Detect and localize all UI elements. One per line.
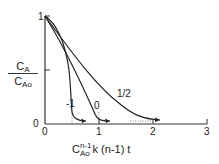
arrow-n-zero-icon [105, 119, 110, 124]
x-label-rest: k (n-1) t [93, 143, 131, 155]
y-label-denominator-sub: Ao [22, 80, 32, 89]
x-tick-label-3: 3 [204, 127, 210, 137]
curve-label-n-zero: 0 [94, 101, 100, 111]
x-label-main: C [72, 143, 80, 155]
arrow-n-minus1-icon [81, 119, 86, 124]
curve-label-n-half: 1/2 [117, 89, 131, 99]
x-tick-label-2: 2 [150, 127, 156, 137]
y-label-numerator-sub: A [24, 65, 29, 74]
y-tick-label-0: 0 [33, 119, 39, 129]
y-axis-label: CA CAo [8, 60, 38, 87]
x-tick-label-1: 1 [96, 127, 102, 137]
x-label-sub: Ao [80, 150, 92, 158]
y-tick-label-1: 1 [38, 12, 44, 22]
curve-label-n-minus1: -1 [66, 99, 75, 109]
x-axis-label: Cn-1Aok (n-1) t [72, 142, 130, 158]
curve-n-half [45, 16, 160, 120]
x-tick-label-0: 0 [42, 127, 48, 137]
curve-n-zero [45, 16, 110, 121]
arrow-n-half-icon [155, 118, 160, 123]
y-label-denominator: C [14, 75, 22, 87]
